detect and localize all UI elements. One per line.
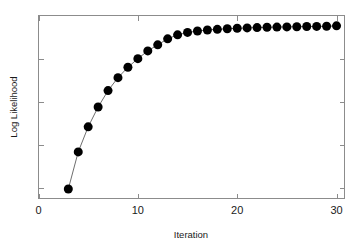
data-point [183, 28, 192, 37]
data-point [64, 185, 73, 194]
data-point [143, 46, 152, 55]
data-point [104, 86, 113, 95]
data-point [263, 23, 272, 32]
x-tick-label-1: 10 [132, 204, 144, 216]
data-point [74, 147, 83, 156]
data-point [84, 122, 93, 131]
data-point [243, 23, 252, 32]
data-point [133, 54, 142, 63]
chart-canvas: 0102030 Iteration Log Likelihood [0, 0, 359, 248]
data-point [153, 40, 162, 49]
data-point [203, 26, 212, 35]
data-point [94, 103, 103, 112]
data-point [302, 22, 311, 31]
x-axis-title: Iteration [174, 229, 208, 240]
data-point [332, 21, 341, 30]
x-tick-label-3: 30 [330, 204, 342, 216]
data-point [272, 23, 281, 32]
data-point [223, 24, 232, 33]
chart-figure: 0102030 Iteration Log Likelihood [0, 0, 359, 248]
data-point [253, 23, 262, 32]
data-point [233, 24, 242, 33]
data-point [163, 34, 172, 43]
data-point [113, 73, 122, 82]
data-point [312, 22, 321, 31]
data-point [282, 22, 291, 31]
data-point [292, 22, 301, 31]
y-axis-title: Log Likelihood [8, 76, 19, 137]
x-tick-label-0: 0 [35, 204, 41, 216]
x-tick-label-2: 20 [231, 204, 243, 216]
data-point [193, 27, 202, 36]
data-point [213, 25, 222, 34]
data-point [173, 30, 182, 39]
data-point [322, 22, 331, 31]
data-point [123, 63, 132, 72]
